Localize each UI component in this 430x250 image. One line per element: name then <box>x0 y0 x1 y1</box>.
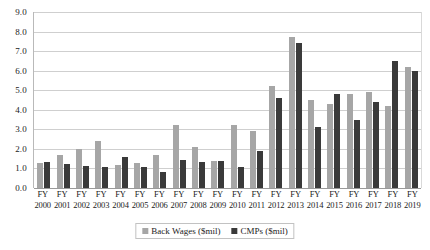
bar <box>308 100 314 188</box>
x-axis-tick-label: FY2008 <box>189 189 208 219</box>
y-axis-tick-label: 8.0 <box>15 27 27 37</box>
bar-group <box>247 12 266 188</box>
bar <box>102 167 108 189</box>
bar <box>115 165 121 188</box>
x-axis-tick-label: FY2014 <box>305 189 324 219</box>
bar-group <box>189 12 208 188</box>
x-axis: FY2000FY2001FY2002FY2003FY2004FY2005FY20… <box>33 189 422 219</box>
bar-group <box>73 12 92 188</box>
bar-group <box>363 12 382 188</box>
bar <box>122 157 128 188</box>
bar <box>141 167 147 188</box>
y-axis-tick-label: 5.0 <box>15 85 27 95</box>
bar-group <box>92 12 111 188</box>
bar-chart: 9.08.07.06.05.04.03.02.01.00.0 FY2000FY2… <box>0 0 430 250</box>
x-axis-tick-label: FY2012 <box>266 189 285 219</box>
x-axis-label-year: 2011 <box>247 200 266 211</box>
x-axis-tick-label: FY2017 <box>364 189 383 219</box>
x-axis-label-fy: FY <box>33 189 52 200</box>
bar-group <box>111 12 130 188</box>
x-axis-tick-label: FY2010 <box>228 189 247 219</box>
x-axis-label-fy: FY <box>169 189 188 200</box>
x-axis-label-year: 2018 <box>383 200 402 211</box>
bar <box>276 98 282 188</box>
x-axis-tick-label: FY2018 <box>383 189 402 219</box>
bar <box>315 127 321 188</box>
x-axis-tick-label: FY2005 <box>130 189 149 219</box>
bar <box>347 94 353 188</box>
x-axis-label-fy: FY <box>325 189 344 200</box>
x-axis-label-fy: FY <box>247 189 266 200</box>
y-axis: 9.08.07.06.05.04.03.02.01.00.0 <box>0 12 31 188</box>
bar <box>134 163 140 188</box>
bar <box>218 161 224 188</box>
x-axis-label-fy: FY <box>208 189 227 200</box>
y-axis-tick-label: 1.0 <box>15 163 27 173</box>
x-axis-tick-label: FY2006 <box>150 189 169 219</box>
bar <box>83 166 89 188</box>
bar <box>373 102 379 188</box>
bar <box>327 104 333 188</box>
x-axis-label-fy: FY <box>364 189 383 200</box>
x-axis-label-year: 2019 <box>403 200 422 211</box>
x-axis-label-year: 2016 <box>344 200 363 211</box>
x-axis-tick-label: FY2007 <box>169 189 188 219</box>
bar <box>192 147 198 188</box>
x-axis-label-year: 2006 <box>150 200 169 211</box>
bar-group <box>34 12 53 188</box>
x-axis-tick-label: FY2009 <box>208 189 227 219</box>
bar <box>153 155 159 188</box>
x-axis-tick-label: FY2000 <box>33 189 52 219</box>
y-axis-tick-label: 9.0 <box>15 7 27 17</box>
x-axis-label-year: 2004 <box>111 200 130 211</box>
x-axis-label-fy: FY <box>403 189 422 200</box>
x-axis-label-year: 2009 <box>208 200 227 211</box>
bar <box>269 86 275 188</box>
x-axis-tick-label: FY2004 <box>111 189 130 219</box>
bar <box>160 172 166 188</box>
bar <box>366 92 372 188</box>
x-axis-label-year: 2012 <box>266 200 285 211</box>
x-axis-label-year: 2005 <box>130 200 149 211</box>
x-axis-tick-label: FY2002 <box>72 189 91 219</box>
x-axis-label-year: 2017 <box>364 200 383 211</box>
bar-group <box>266 12 285 188</box>
bar <box>173 125 179 188</box>
x-axis-label-year: 2014 <box>305 200 324 211</box>
bar <box>392 61 398 188</box>
bar <box>238 167 244 189</box>
legend-item[interactable]: CMPs ($mil) <box>231 226 287 236</box>
bar-group <box>150 12 169 188</box>
x-axis-label-year: 2015 <box>325 200 344 211</box>
bar-group <box>324 12 343 188</box>
x-axis-label-fy: FY <box>344 189 363 200</box>
x-axis-tick-label: FY2011 <box>247 189 266 219</box>
x-axis-label-year: 2003 <box>91 200 110 211</box>
bar <box>44 162 50 188</box>
x-axis-tick-label: FY2016 <box>344 189 363 219</box>
legend-item[interactable]: Back Wages ($mil) <box>142 226 220 236</box>
x-axis-tick-label: FY2013 <box>286 189 305 219</box>
bar <box>199 162 205 188</box>
bar <box>180 160 186 188</box>
bar <box>95 141 101 188</box>
legend-swatch-icon <box>142 228 148 234</box>
bar-group <box>53 12 72 188</box>
y-axis-tick-label: 4.0 <box>15 105 27 115</box>
bar <box>405 67 411 188</box>
bar <box>250 131 256 188</box>
bar <box>334 94 340 188</box>
x-axis-tick-label: FY2001 <box>52 189 71 219</box>
bar-group <box>208 12 227 188</box>
x-axis-tick-label: FY2015 <box>325 189 344 219</box>
x-axis-label-year: 2002 <box>72 200 91 211</box>
bar <box>412 71 418 188</box>
x-axis-label-year: 2007 <box>169 200 188 211</box>
bar-group <box>285 12 304 188</box>
x-axis-label-year: 2013 <box>286 200 305 211</box>
bar <box>211 161 217 188</box>
x-axis-label-fy: FY <box>91 189 110 200</box>
x-axis-tick-label: FY2019 <box>403 189 422 219</box>
bar <box>76 149 82 188</box>
x-axis-label-fy: FY <box>52 189 71 200</box>
